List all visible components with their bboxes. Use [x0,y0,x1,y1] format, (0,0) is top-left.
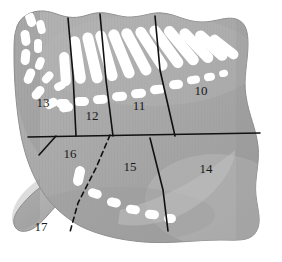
region-label-17: 17 [35,219,49,234]
region-label-12: 12 [86,108,99,123]
region-label-13: 13 [37,95,50,110]
region-label-10: 10 [195,83,208,98]
region-label-15: 15 [124,159,137,174]
anatomical-diagram: 13 12 11 10 16 15 14 17 [0,0,282,262]
figure-container: 13 12 11 10 16 15 14 17 [0,0,282,262]
region-label-14: 14 [200,161,214,176]
region-label-11: 11 [133,98,146,113]
region-label-16: 16 [64,146,78,161]
